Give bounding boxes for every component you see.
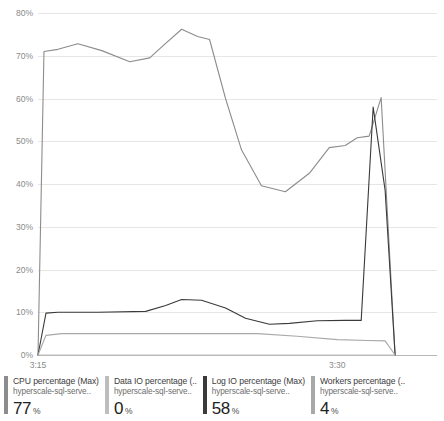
- legend-metric-value: 4: [320, 400, 329, 416]
- y-axis-tick-label: 20%: [16, 265, 33, 275]
- y-axis-tick-label: 70%: [16, 51, 33, 61]
- legend-item[interactable]: Data IO percentage (..hyperscale-sql-ser…: [105, 376, 197, 416]
- metrics-chart-panel: 0%10%20%30%40%50%60%70%80% 3:153:30 CPU …: [0, 0, 444, 421]
- legend-text-block: Log IO percentage (Max)hyperscale-sql-se…: [212, 376, 305, 416]
- y-axis-tick-label: 30%: [16, 222, 33, 232]
- x-axis-tick-label: 3:15: [30, 360, 47, 370]
- legend-text-block: CPU percentage (Max)hyperscale-sql-serve…: [13, 376, 99, 416]
- legend-metric-unit: %: [331, 407, 339, 416]
- y-axis-tick-label: 50%: [16, 136, 33, 146]
- legend-metric-value: 58: [212, 400, 230, 416]
- line-chart-svg[interactable]: 0%10%20%30%40%50%60%70%80% 3:153:30: [0, 0, 444, 372]
- y-axis-tick-label: 40%: [16, 179, 33, 189]
- legend-resource-name: hyperscale-sql-serve..: [13, 388, 99, 397]
- chart-series-group: [38, 29, 395, 355]
- y-axis-tick-label: 60%: [16, 94, 33, 104]
- legend-color-swatch: [105, 376, 109, 414]
- legend-value-row: 77%: [13, 400, 99, 416]
- legend-value-row: 58%: [212, 400, 305, 416]
- legend-item[interactable]: CPU percentage (Max)hyperscale-sql-serve…: [4, 376, 99, 416]
- chart-y-axis-labels: 0%10%20%30%40%50%60%70%80%: [16, 8, 33, 360]
- y-axis-tick-label: 0%: [21, 350, 34, 360]
- chart-gridlines: [38, 14, 437, 356]
- legend-resource-name: hyperscale-sql-serve..: [114, 388, 197, 397]
- chart-legend: CPU percentage (Max)hyperscale-sql-serve…: [4, 376, 440, 418]
- legend-color-swatch: [203, 376, 207, 414]
- legend-resource-name: hyperscale-sql-serve..: [320, 388, 405, 397]
- legend-color-swatch: [311, 376, 315, 414]
- legend-metric-unit: %: [232, 407, 240, 416]
- legend-value-row: 4%: [320, 400, 405, 416]
- legend-metric-name: Workers percentage (..: [320, 377, 405, 386]
- chart-series-line: [38, 29, 395, 355]
- chart-series-line: [38, 107, 395, 355]
- legend-metric-name: CPU percentage (Max): [13, 377, 99, 386]
- chart-series-line: [38, 334, 395, 355]
- legend-metric-value: 0: [114, 400, 123, 416]
- y-axis-tick-label: 10%: [16, 307, 33, 317]
- legend-metric-name: Log IO percentage (Max): [212, 377, 305, 386]
- legend-value-row: 0%: [114, 400, 197, 416]
- legend-color-swatch: [4, 376, 8, 414]
- x-axis-tick-label: 3:30: [329, 360, 346, 370]
- chart-area[interactable]: 0%10%20%30%40%50%60%70%80% 3:153:30: [0, 0, 444, 372]
- legend-metric-name: Data IO percentage (..: [114, 377, 197, 386]
- legend-metric-unit: %: [33, 407, 41, 416]
- legend-text-block: Workers percentage (..hyperscale-sql-ser…: [320, 376, 405, 416]
- legend-item[interactable]: Workers percentage (..hyperscale-sql-ser…: [311, 376, 405, 416]
- legend-resource-name: hyperscale-sql-serve..: [212, 388, 305, 397]
- legend-metric-value: 77: [13, 400, 31, 416]
- legend-item[interactable]: Log IO percentage (Max)hyperscale-sql-se…: [203, 376, 305, 416]
- y-axis-tick-label: 80%: [16, 8, 33, 18]
- legend-metric-unit: %: [125, 407, 133, 416]
- legend-text-block: Data IO percentage (..hyperscale-sql-ser…: [114, 376, 197, 416]
- chart-x-axis-labels: 3:153:30: [30, 360, 346, 370]
